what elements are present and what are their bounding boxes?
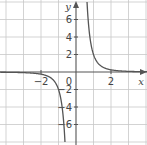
plot-area: −22−6−4−22460xy	[0, 0, 147, 145]
y-tick-label: 2	[66, 49, 72, 60]
y-tick-label: 4	[66, 32, 72, 43]
x-axis-label: x	[138, 76, 144, 87]
origin-label: 0	[66, 76, 72, 87]
x-tick-label: 2	[108, 76, 114, 87]
y-axis-label: y	[64, 1, 71, 12]
y-tick-label: 6	[66, 14, 72, 25]
x-tick-label: −2	[34, 76, 49, 87]
y-tick-label: −4	[57, 102, 72, 113]
function-graph: −22−6−4−22460xy	[0, 0, 147, 145]
